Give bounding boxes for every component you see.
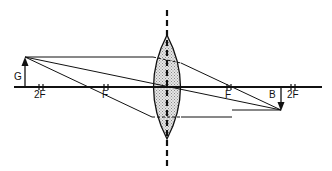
label-f-right: F (225, 89, 231, 100)
label-2f-right: 2F (287, 89, 299, 100)
ray-center (25, 57, 281, 110)
label-image-b: B (269, 89, 276, 100)
label-object-g: G (14, 71, 22, 82)
ray-diagram: G 2F F F B 2F (0, 0, 332, 171)
label-2f-left: 2F (34, 89, 46, 100)
label-f-left: F (102, 89, 108, 100)
